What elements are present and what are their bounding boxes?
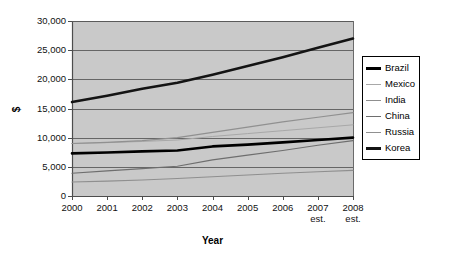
legend-swatch-india — [366, 100, 381, 101]
legend-swatch-brazil — [366, 67, 381, 70]
x-tick-year: 2007 — [307, 202, 328, 213]
legend-label: Korea — [385, 143, 410, 153]
x-tick-label: 2006 — [263, 202, 303, 213]
y-tick-label: 30,000 — [20, 16, 66, 26]
legend-item-mexico[interactable]: Mexico — [363, 76, 419, 92]
chart-legend: BrazilMexicoIndiaChinaRussiaKorea — [362, 56, 420, 160]
legend-label: Brazil — [385, 63, 409, 73]
y-tick-label: 10,000 — [20, 133, 66, 143]
legend-swatch-china — [366, 116, 381, 117]
legend-swatch-mexico — [366, 84, 381, 85]
legend-item-russia[interactable]: Russia — [363, 124, 419, 140]
x-tick-label: 2004 — [193, 202, 233, 213]
legend-item-korea[interactable]: Korea — [363, 140, 419, 156]
y-tick-label: 15,000 — [20, 104, 66, 114]
legend-item-china[interactable]: China — [363, 108, 419, 124]
legend-label: China — [385, 111, 410, 121]
x-tick-label: 2005 — [228, 202, 268, 213]
y-tick-label: 20,000 — [20, 74, 66, 84]
x-tick-estimate-note: est. — [333, 213, 373, 224]
legend-label: Mexico — [385, 79, 415, 89]
legend-label: India — [385, 95, 406, 105]
legend-swatch-russia — [366, 132, 381, 133]
x-tick-estimate-note: est. — [298, 213, 338, 224]
y-tick-label: 0 — [20, 191, 66, 201]
x-tick-year: 2000 — [61, 202, 82, 213]
legend-item-india[interactable]: India — [363, 92, 419, 108]
x-tick-label: 2001 — [87, 202, 127, 213]
x-tick-year: 2006 — [272, 202, 293, 213]
x-tick-year: 2005 — [237, 202, 258, 213]
legend-swatch-korea — [366, 147, 381, 150]
legend-label: Russia — [385, 127, 414, 137]
x-tick-label: 2007est. — [298, 202, 338, 224]
line-chart: $ 05,00010,00015,00020,00025,00030,000 2… — [0, 0, 449, 257]
x-tick-label: 2008est. — [333, 202, 373, 224]
x-tick-year: 2001 — [97, 202, 118, 213]
x-tick-label: 2002 — [122, 202, 162, 213]
x-tick-year: 2003 — [167, 202, 188, 213]
y-tick-label: 25,000 — [20, 45, 66, 55]
x-tick-year: 2004 — [202, 202, 223, 213]
x-tick-label: 2003 — [157, 202, 197, 213]
plot-background — [72, 21, 353, 196]
x-axis-title: Year — [72, 235, 353, 246]
x-tick-year: 2008 — [342, 202, 363, 213]
x-tick-year: 2002 — [132, 202, 153, 213]
x-tick-label: 2000 — [52, 202, 92, 213]
legend-item-brazil[interactable]: Brazil — [363, 60, 419, 76]
y-tick-label: 5,000 — [20, 162, 66, 172]
